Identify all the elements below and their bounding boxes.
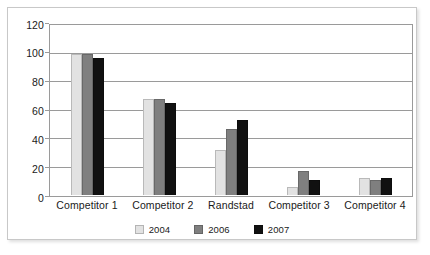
legend-swatch-icon [254,225,263,234]
x-axis-label: Competitor 1 [56,199,117,211]
y-tick-label: 40 [32,134,44,146]
x-axis-label: Competitor 4 [344,199,405,211]
legend-label: 2007 [268,224,290,235]
bar-group [287,26,320,195]
bar [359,178,370,195]
legend-item: 2007 [254,224,290,235]
y-tick-mark [45,81,49,82]
y-tick-mark [45,110,49,111]
legend-swatch-icon [135,225,144,234]
chart-legend: 200420062007 [8,224,416,235]
bar [71,54,82,195]
bar [93,58,104,195]
bar [237,120,248,195]
y-tick-label: 20 [32,163,44,175]
legend-label: 2004 [149,224,171,235]
x-axis-label: Competitor 3 [268,199,329,211]
bar [287,187,298,195]
chart-card: 020406080100120 Competitor 1Competitor 2… [7,7,417,240]
x-axis-labels: Competitor 1Competitor 2RandstadCompetit… [49,199,413,217]
x-axis-label: Competitor 2 [132,199,193,211]
y-tick-mark [45,196,49,197]
bar [82,54,93,195]
y-tick-label: 80 [32,76,44,88]
legend-item: 2004 [135,224,171,235]
legend-label: 2006 [208,224,230,235]
plot-wrapper: 020406080100120 [49,24,413,197]
bar [381,178,392,195]
bar [154,99,165,195]
bar [143,99,154,195]
y-tick-label: 0 [38,192,44,204]
y-tick-mark [45,52,49,53]
y-tick-mark [45,138,49,139]
bar-group [143,26,176,195]
bar-group [359,26,392,195]
legend-item: 2006 [194,224,230,235]
bar [298,171,309,195]
y-tick-label: 60 [32,105,44,117]
bar [309,180,320,195]
bar [165,103,176,195]
bar-group [71,26,104,195]
plot-area [49,24,413,197]
bar [370,180,381,195]
bar-group [215,26,248,195]
legend-swatch-icon [194,225,203,234]
bar-groups [51,26,411,195]
y-tick-mark [45,23,49,24]
bar [215,150,226,195]
y-tick-label: 100 [26,47,44,59]
bar [226,129,237,195]
x-axis-label: Randstad [208,199,254,211]
y-tick-mark [45,167,49,168]
y-tick-label: 120 [26,19,44,31]
